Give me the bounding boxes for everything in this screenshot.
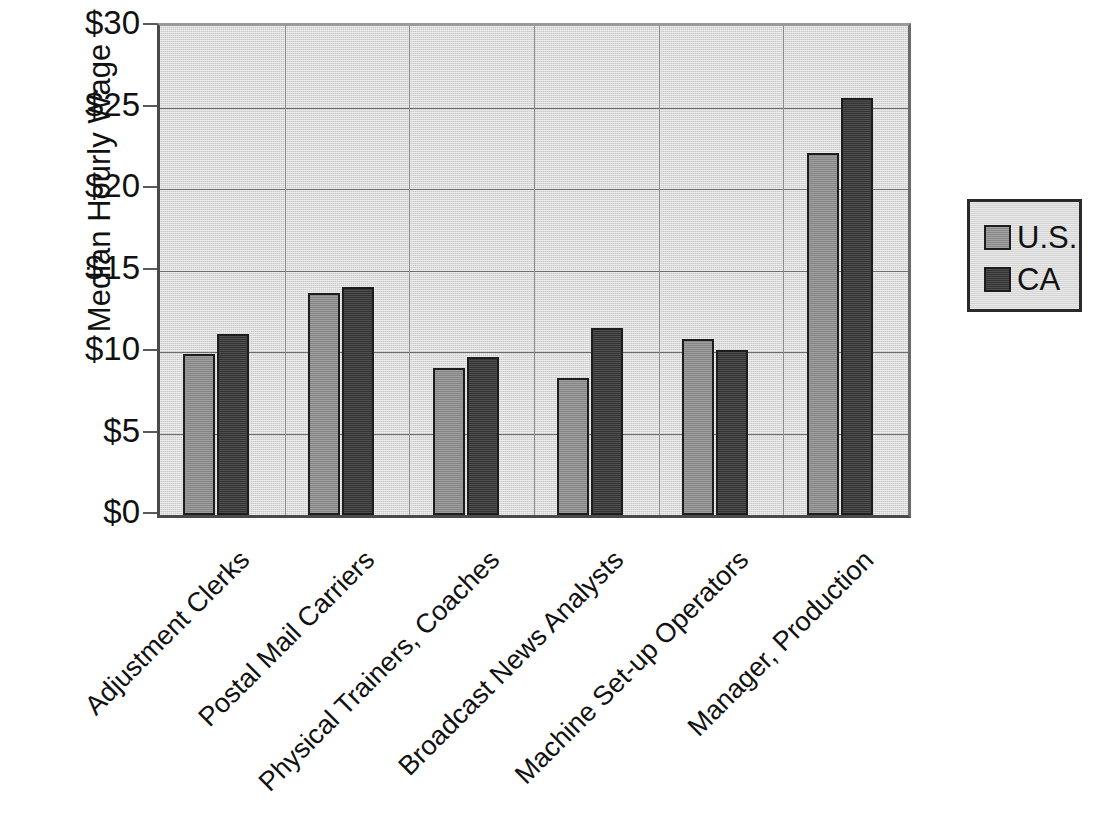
bar-ca	[217, 334, 249, 515]
x-axis-tick-labels: Adjustment ClerksPostal Mail CarriersPhy…	[0, 0, 1108, 819]
legend-label-us: U.S.	[1017, 222, 1077, 253]
y-axis-tick-mark	[143, 431, 157, 433]
bar-us	[308, 293, 340, 515]
x-axis-tick-label: Machine Set-up Operators	[367, 546, 754, 819]
y-axis-tick-mark	[143, 268, 157, 270]
legend-swatch-us-icon	[984, 225, 1011, 250]
legend-item-us: U.S.	[984, 218, 1079, 256]
legend-label-ca: CA	[1017, 264, 1060, 295]
bar-chart-figure: Median Hourly Wage $0$5$10$15$20$25$30 A…	[0, 0, 1108, 819]
bar-ca	[591, 328, 623, 515]
bar-ca	[841, 98, 873, 515]
y-axis-tick-mark	[143, 105, 157, 107]
bar-us	[433, 368, 465, 515]
y-axis-tick-mark	[143, 186, 157, 188]
x-axis-tick-label: Physical Trainers, Coaches	[117, 546, 504, 819]
chart-legend: U.S. CA	[967, 199, 1082, 312]
bar-us	[682, 339, 714, 515]
y-axis-tick-mark	[143, 349, 157, 351]
y-axis-tick-mark	[143, 23, 157, 25]
bar-ca	[716, 350, 748, 515]
bar-us	[557, 378, 589, 515]
bar-ca	[467, 357, 499, 515]
x-axis-tick-label: Broadcast News Analysts	[242, 546, 629, 819]
y-axis-tick-mark	[143, 512, 157, 514]
legend-swatch-ca-icon	[984, 267, 1011, 292]
legend-item-ca: CA	[984, 260, 1079, 298]
bar-us	[807, 153, 839, 515]
bar-ca	[342, 287, 374, 515]
x-axis-tick-label: Manager, Production	[491, 546, 878, 819]
bar-us	[183, 354, 215, 515]
